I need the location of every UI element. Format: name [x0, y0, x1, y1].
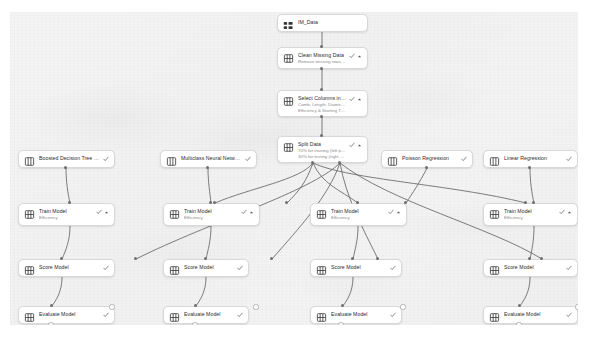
chevron-up-icon[interactable]: [357, 54, 362, 59]
node-status-badge: [559, 209, 572, 215]
node-status-badge: [237, 265, 243, 271]
split-data-node[interactable]: Split Data70% for training (left port)30…: [277, 136, 368, 163]
status-check-icon: [103, 265, 109, 271]
module-icon: [24, 312, 35, 323]
screenshot-root: IM_DataClean Missing DataRemove missing …: [0, 0, 590, 338]
status-check-icon: [390, 265, 396, 271]
chevron-up-icon[interactable]: [249, 210, 254, 215]
node-title: Evaluate Model: [504, 311, 563, 318]
node-title: Score Model: [184, 264, 234, 271]
node-status-badge: [566, 156, 572, 162]
node-status-badge: [103, 312, 109, 318]
module-icon: [283, 96, 294, 107]
node-title: Score Model: [39, 264, 100, 271]
module-icon: [316, 265, 327, 276]
dataset-node[interactable]: IM_Data: [277, 14, 368, 32]
pipeline-canvas[interactable]: IM_DataClean Missing DataRemove missing …: [10, 12, 578, 325]
algorithm-icon: [387, 156, 398, 167]
node-title: Train Model: [331, 208, 385, 215]
node-title: Linear Regression: [504, 155, 563, 162]
node-status-badge: [349, 53, 362, 59]
node-title: Train Model: [39, 208, 93, 215]
module-icon: [283, 53, 294, 64]
node-subtitle: Efficiency: [504, 215, 556, 221]
algorithm-icon: [24, 156, 35, 167]
node-port[interactable]: [253, 304, 258, 309]
train-model-node-4[interactable]: Train ModelEfficiency: [483, 203, 578, 226]
train-model-node-1[interactable]: Train ModelEfficiency: [18, 203, 115, 226]
algorithm-icon: [489, 156, 500, 167]
node-port[interactable]: [575, 304, 578, 309]
node-status-badge: [566, 312, 572, 318]
module-icon: [283, 142, 294, 153]
node-status-badge: [103, 265, 109, 271]
boosted-decision-tree-regression-node[interactable]: Boosted Decision Tree Regre...: [18, 150, 115, 168]
status-check-icon: [349, 53, 355, 59]
chevron-up-icon[interactable]: [396, 210, 401, 215]
module-icon: [169, 312, 180, 323]
module-icon: [489, 209, 500, 220]
status-check-icon: [237, 312, 243, 318]
node-status-badge: [241, 209, 254, 215]
module-icon: [24, 265, 35, 276]
node-status-badge: [566, 265, 572, 271]
node-title: Score Model: [504, 264, 563, 271]
status-check-icon: [388, 209, 394, 215]
node-subtitle-line2: Efficiency & Starting Torque: [298, 108, 346, 114]
module-icon: [316, 312, 327, 323]
node-status-badge: [390, 265, 396, 271]
node-port[interactable]: [338, 322, 343, 325]
train-model-node-3[interactable]: Train ModelEfficiency: [310, 203, 407, 226]
status-check-icon: [103, 156, 109, 162]
algorithm-icon: [166, 156, 177, 167]
node-port[interactable]: [192, 322, 197, 325]
dataset-icon: [283, 20, 294, 31]
status-check-icon: [103, 312, 109, 318]
node-subtitle: Efficiency: [184, 215, 238, 221]
node-title: Split Data: [298, 141, 346, 148]
status-check-icon: [245, 156, 251, 162]
score-model-node-4[interactable]: Score Model: [483, 259, 578, 277]
status-check-icon: [237, 265, 243, 271]
node-title: Train Model: [504, 208, 556, 215]
chevron-up-icon[interactable]: [567, 210, 572, 215]
node-title: Evaluate Model: [39, 311, 100, 318]
module-icon: [24, 209, 35, 220]
node-title: Train Model: [184, 208, 238, 215]
chevron-up-icon[interactable]: [357, 97, 362, 102]
chevron-up-icon[interactable]: [104, 210, 109, 215]
module-icon: [169, 209, 180, 220]
evaluate-model-node-3[interactable]: Evaluate Model: [310, 306, 402, 324]
linear-regression-node[interactable]: Linear Regression: [483, 150, 578, 168]
node-status-badge: [103, 156, 109, 162]
node-title: IM_Data: [298, 19, 362, 26]
evaluate-model-node-1[interactable]: Evaluate Model: [18, 306, 115, 324]
node-title: Evaluate Model: [184, 311, 234, 318]
node-title: Evaluate Model: [331, 311, 387, 318]
node-port[interactable]: [109, 304, 114, 309]
status-check-icon: [390, 312, 396, 318]
evaluate-model-node-2[interactable]: Evaluate Model: [163, 306, 249, 324]
evaluate-model-node-4[interactable]: Evaluate Model: [483, 306, 578, 324]
module-icon: [316, 209, 327, 220]
score-model-node-2[interactable]: Score Model: [163, 259, 249, 277]
multiclass-neural-network-node[interactable]: Multiclass Neural Network: [160, 150, 257, 168]
train-model-node-2[interactable]: Train ModelEfficiency: [163, 203, 260, 226]
node-title: Select Columns in Dataset: [298, 95, 346, 102]
chevron-up-icon[interactable]: [357, 143, 362, 148]
status-check-icon: [241, 209, 247, 215]
node-status-badge: [388, 209, 401, 215]
score-model-node-3[interactable]: Score Model: [310, 259, 402, 277]
clean-missing-data-node[interactable]: Clean Missing DataRemove missing rows va…: [277, 47, 368, 69]
select-columns-node[interactable]: Select Columns in DatasetComb, Length, D…: [277, 90, 368, 117]
node-status-badge: [349, 96, 362, 102]
node-port[interactable]: [400, 304, 405, 309]
node-port[interactable]: [48, 322, 53, 325]
poisson-regression-node[interactable]: Poisson Regression: [381, 150, 473, 168]
node-title: Clean Missing Data: [298, 52, 346, 59]
status-check-icon: [559, 209, 565, 215]
node-port[interactable]: [516, 322, 521, 325]
node-title: Boosted Decision Tree Regre...: [39, 155, 100, 162]
node-status-badge: [461, 156, 467, 162]
score-model-node-1[interactable]: Score Model: [18, 259, 115, 277]
